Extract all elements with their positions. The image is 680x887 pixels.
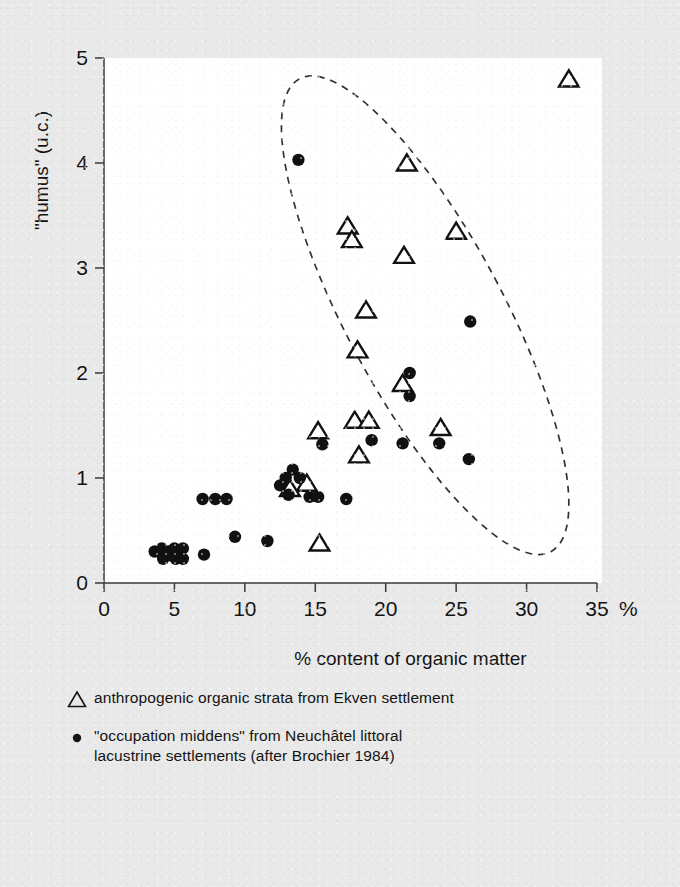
x-axis-tick-label: 15: [304, 597, 327, 620]
data-point-circle: [274, 479, 286, 491]
data-point-circle: [464, 315, 476, 327]
data-point-circle: [198, 548, 210, 560]
circle-filled-icon: [60, 726, 94, 746]
x-axis-tick-label: 10: [233, 597, 256, 620]
chart-legend: anthropogenic organic strata from Ekven …: [60, 688, 640, 784]
y-axis-tick-label: 0: [76, 571, 88, 594]
figure-page: 01234505101520253035%"humus" (u.c.)% con…: [0, 0, 680, 887]
data-point-circle: [261, 535, 273, 547]
y-axis-tick-label: 5: [76, 46, 88, 69]
legend-item-triangle: anthropogenic organic strata from Ekven …: [60, 688, 640, 708]
y-axis-tick-label: 3: [76, 256, 88, 279]
y-axis-tick-label: 2: [76, 361, 88, 384]
legend-item-circle: "occupation middens" from Neuchâtel litt…: [60, 726, 640, 766]
x-axis-unit-label: %: [619, 597, 638, 620]
data-point-circle: [316, 438, 328, 450]
x-axis-tick-label: 35: [585, 597, 608, 620]
data-point-circle: [220, 493, 232, 505]
data-point-circle: [209, 493, 221, 505]
y-axis-title: "humus" (u.c.): [31, 111, 52, 230]
y-axis-tick-label: 4: [76, 151, 88, 174]
plot-area-background: [104, 58, 602, 583]
data-point-circle: [292, 154, 304, 166]
x-axis-title: % content of organic matter: [294, 648, 527, 669]
triangle-open-icon: [60, 688, 94, 708]
legend-item-circle-label: "occupation middens" from Neuchâtel litt…: [94, 726, 402, 766]
legend-line: "occupation middens" from Neuchâtel litt…: [94, 726, 402, 746]
data-point-circle: [463, 453, 475, 465]
data-point-circle: [229, 531, 241, 543]
data-point-circle: [365, 434, 377, 446]
data-point-circle: [396, 437, 408, 449]
data-point-circle: [433, 437, 445, 449]
x-axis-tick-label: 5: [169, 597, 181, 620]
scatter-plot: 01234505101520253035%"humus" (u.c.)% con…: [0, 0, 680, 680]
legend-item-triangle-label: anthropogenic organic strata from Ekven …: [94, 688, 454, 708]
data-point-circle: [177, 553, 189, 565]
data-point-circle: [403, 390, 415, 402]
data-point-circle: [196, 493, 208, 505]
x-axis-tick-label: 20: [374, 597, 397, 620]
data-point-circle: [340, 493, 352, 505]
data-point-circle: [312, 491, 324, 503]
x-axis-tick-label: 0: [98, 597, 110, 620]
data-point-circle: [282, 489, 294, 501]
legend-line: anthropogenic organic strata from Ekven …: [94, 688, 454, 708]
y-axis-tick-label: 1: [76, 466, 88, 489]
x-axis-tick-label: 30: [515, 597, 538, 620]
x-axis-tick-label: 25: [444, 597, 467, 620]
data-point-circle: [294, 472, 306, 484]
data-point-circle: [403, 367, 415, 379]
legend-line: lacustrine settlements (after Brochier 1…: [94, 746, 402, 766]
